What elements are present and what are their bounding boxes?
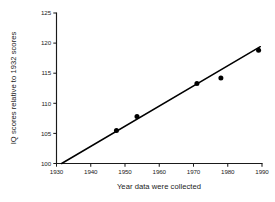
x-tick-label: 1980 <box>221 168 235 175</box>
trend-line-group <box>62 47 261 164</box>
regression-line <box>62 47 261 164</box>
axis-spine-path <box>57 13 263 164</box>
y-tick-label: 110 <box>41 100 51 107</box>
y-tick-label: 120 <box>41 39 52 46</box>
x-tick-label: 1970 <box>187 168 201 175</box>
data-point <box>134 114 139 119</box>
x-tick-label: 1990 <box>255 168 269 175</box>
data-point <box>114 128 119 133</box>
x-axis-title: Year data were collected <box>117 182 201 191</box>
x-tick-label: 1960 <box>153 168 167 175</box>
x-tick-label: 1950 <box>118 168 132 175</box>
data-point <box>256 48 261 53</box>
data-point <box>194 81 199 86</box>
y-tick-label: 105 <box>41 130 52 137</box>
x-tick-label: 1940 <box>84 168 98 175</box>
y-tick-label: 115 <box>41 69 51 76</box>
data-point <box>218 76 223 81</box>
y-axis-ticks: 100105110115120125 <box>41 9 57 167</box>
x-tick-label: 1930 <box>50 168 64 175</box>
y-tick-label: 100 <box>41 160 52 167</box>
x-axis-ticks: 1930194019501960197019801990 <box>50 164 270 176</box>
chart-figure: 100105110115120125 193019401950196019701… <box>0 0 275 202</box>
iq-scores-scatter-chart: 100105110115120125 193019401950196019701… <box>0 0 275 202</box>
y-tick-label: 125 <box>41 9 52 16</box>
axis-spines <box>57 13 263 164</box>
y-axis-title: IQ scores relative to 1932 scores <box>9 32 18 145</box>
